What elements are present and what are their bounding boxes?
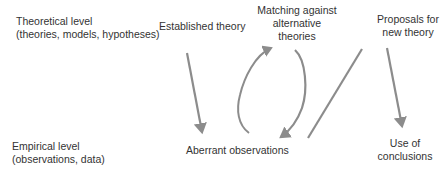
arrow-established-to-aberrant [187,53,202,132]
arrow-aberrant-to-proposals [308,49,362,138]
arrow-proposals-to-use [387,48,402,126]
arrow-matching-to-aberrant [281,50,305,137]
arrow-aberrant-to-matching [238,48,271,133]
